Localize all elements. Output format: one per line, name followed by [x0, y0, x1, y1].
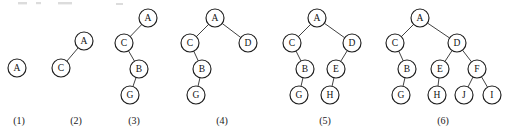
- tree-nodes: ACDBG: [181, 9, 257, 104]
- tree-panel-3: ACBG(3): [115, 9, 157, 127]
- tree-panel-2: AC(2): [52, 32, 93, 127]
- tree-node-B: B: [296, 60, 314, 78]
- tree-edge-C-B: [129, 51, 135, 61]
- panel-caption-3: (3): [128, 115, 140, 127]
- tree-node-A: A: [8, 59, 26, 77]
- node-label-G: G: [192, 90, 199, 100]
- tree-edge-C-B: [296, 51, 301, 61]
- tree-node-D: D: [239, 34, 257, 52]
- tree-node-E: E: [327, 60, 345, 78]
- tree-edge-B-G: [301, 78, 303, 86]
- tree-node-G: G: [187, 86, 205, 104]
- scan-speck: [58, 2, 72, 4]
- panel-caption-1: (1): [13, 115, 25, 127]
- node-label-F: F: [474, 64, 479, 74]
- tree-edge-A-D: [427, 23, 449, 38]
- node-label-A: A: [80, 36, 87, 46]
- tree-node-B: B: [193, 60, 211, 78]
- panel-caption-6: (6): [437, 115, 449, 127]
- node-label-A: A: [211, 13, 218, 23]
- node-label-D: D: [244, 38, 251, 48]
- tree-edges: [67, 48, 78, 61]
- tree-nodes: ACDBEGH: [283, 9, 361, 104]
- node-label-C: C: [58, 63, 65, 73]
- tree-node-C: C: [181, 34, 199, 52]
- binary-tree-figure: A(1)AC(2)ACBG(3)ACDBG(4)ACDBEGH(5)ACDBEF…: [0, 0, 505, 137]
- node-label-D: D: [348, 38, 355, 48]
- node-label-B: B: [199, 64, 206, 74]
- node-label-H: H: [433, 90, 440, 100]
- tree-edge-E-H: [332, 78, 334, 86]
- tree-edge-A-D: [222, 23, 241, 37]
- node-label-A: A: [416, 13, 423, 23]
- node-label-G: G: [126, 90, 133, 100]
- tree-edge-D-E: [341, 51, 348, 62]
- tree-panels-group: A(1)AC(2)ACBG(3)ACDBG(4)ACDBEGH(5)ACDBEF…: [8, 9, 501, 127]
- tree-node-C: C: [52, 59, 70, 77]
- tree-node-B: B: [398, 60, 416, 78]
- node-label-B: B: [302, 64, 309, 74]
- tree-node-D: D: [343, 34, 361, 52]
- tree-edge-C-B: [399, 51, 403, 61]
- scan-speck: [18, 2, 27, 4]
- node-label-B: B: [404, 64, 411, 74]
- tree-node-F: F: [468, 60, 486, 78]
- node-label-E: E: [437, 64, 443, 74]
- tree-edge-A-C: [298, 24, 310, 36]
- tree-panel-1: A(1): [8, 59, 26, 127]
- panel-caption-2: (2): [70, 115, 82, 127]
- tree-edge-B-G: [403, 78, 405, 86]
- tree-node-A: A: [139, 9, 157, 27]
- tree-node-I: I: [483, 86, 501, 104]
- tree-node-C: C: [115, 34, 133, 52]
- panel-caption-5: (5): [319, 115, 331, 127]
- tree-node-G: G: [290, 86, 308, 104]
- tree-node-C: C: [283, 34, 301, 52]
- tree-node-C: C: [386, 34, 404, 52]
- tree-node-E: E: [431, 60, 449, 78]
- panel-caption-4: (4): [216, 115, 228, 127]
- tree-edge-E-H: [438, 78, 439, 86]
- node-label-G: G: [397, 90, 404, 100]
- node-label-D: D: [453, 38, 460, 48]
- node-label-H: H: [326, 90, 333, 100]
- tree-node-A: A: [308, 9, 326, 27]
- node-label-C: C: [121, 38, 128, 48]
- node-label-C: C: [392, 38, 399, 48]
- node-label-A: A: [144, 13, 151, 23]
- tree-nodes: ACBG: [115, 9, 157, 104]
- tree-panel-5: ACDBEGH(5): [283, 9, 361, 127]
- node-label-C: C: [289, 38, 296, 48]
- node-label-A: A: [13, 63, 20, 73]
- tree-edge-D-F: [462, 50, 471, 62]
- tree-node-J: J: [455, 86, 473, 104]
- tree-edge-A-C: [130, 24, 142, 36]
- node-label-G: G: [295, 90, 302, 100]
- node-label-I: I: [490, 90, 493, 100]
- tree-node-G: G: [392, 86, 410, 104]
- tree-edge-B-G: [133, 78, 136, 87]
- scan-speck: [116, 3, 123, 5]
- scan-artifacts: [18, 2, 123, 5]
- tree-nodes: A: [8, 59, 26, 77]
- tree-panel-4: ACDBG(4): [181, 9, 257, 127]
- tree-edge-F-J: [468, 77, 473, 87]
- tree-node-H: H: [428, 86, 446, 104]
- tree-edge-F-I: [482, 77, 488, 87]
- tree-node-H: H: [321, 86, 339, 104]
- tree-edge-C-B: [194, 51, 198, 61]
- node-label-E: E: [333, 64, 339, 74]
- node-label-B: B: [136, 64, 143, 74]
- tree-node-G: G: [121, 86, 139, 104]
- tree-edge-A-D: [324, 23, 344, 38]
- tree-node-B: B: [130, 60, 148, 78]
- tree-edge-B-G: [198, 78, 200, 86]
- node-label-C: C: [187, 38, 194, 48]
- tree-nodes: ACDBEFGHJI: [386, 9, 501, 104]
- scan-speck: [36, 2, 41, 4]
- tree-edge-A-C: [196, 24, 208, 36]
- tree-edge-D-E: [445, 51, 452, 62]
- tree-panel-6: ACDBEFGHJI(6): [386, 9, 501, 127]
- tree-node-A: A: [75, 32, 93, 50]
- tree-node-D: D: [448, 34, 466, 52]
